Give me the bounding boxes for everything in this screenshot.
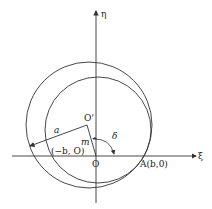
eta-axis-label: η <box>101 9 106 19</box>
radius-label: a <box>54 125 59 135</box>
point-a-label: A(b,0) <box>139 159 168 169</box>
angle-label: δ <box>112 131 117 141</box>
diagram-canvas: η ξ O' a m δ (−b, O) O A(b,0) <box>0 0 212 209</box>
xi-axis-label: ξ <box>198 151 203 161</box>
center-label: O' <box>84 113 94 123</box>
origin-label: O <box>92 159 99 169</box>
neg-b-label: (−b, O) <box>51 146 84 156</box>
